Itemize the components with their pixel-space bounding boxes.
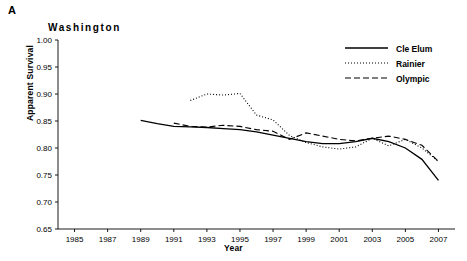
y-tick-label: 1.00 — [36, 36, 52, 45]
y-tick-label: 0.75 — [36, 171, 52, 180]
legend-item-label: Cle Elum — [396, 44, 433, 54]
legend-item-label: Olympic — [396, 74, 430, 84]
x-tick-label: 2007 — [430, 235, 448, 244]
series-line — [190, 93, 438, 161]
y-tick-label: 0.85 — [36, 117, 52, 126]
x-axis-ticks: 1985198719891991199319951997199920012003… — [66, 229, 448, 244]
series-line — [174, 123, 439, 161]
x-tick-label: 1993 — [198, 235, 216, 244]
x-tick-label: 1999 — [297, 235, 315, 244]
x-tick-label: 2001 — [330, 235, 348, 244]
y-axis-ticks: 0.650.700.750.800.850.900.951.00 — [36, 36, 58, 234]
chart-panel: A Washington Apparent Survival Year 0.65… — [0, 0, 467, 261]
series-line — [141, 120, 439, 180]
y-tick-label: 0.95 — [36, 63, 52, 72]
x-tick-label: 1985 — [66, 235, 84, 244]
plot-area: 0.650.700.750.800.850.900.951.00 1985198… — [0, 0, 467, 261]
y-tick-label: 0.90 — [36, 90, 52, 99]
x-tick-label: 2003 — [363, 235, 381, 244]
y-tick-label: 0.65 — [36, 225, 52, 234]
x-tick-label: 1997 — [264, 235, 282, 244]
legend-item-label: Rainier — [396, 59, 426, 69]
x-tick-label: 1995 — [231, 235, 249, 244]
y-tick-label: 0.80 — [36, 144, 52, 153]
y-tick-label: 0.70 — [36, 198, 52, 207]
x-tick-label: 1989 — [132, 235, 150, 244]
chart-legend: Cle ElumRainierOlympic — [345, 44, 433, 84]
x-tick-label: 2005 — [396, 235, 414, 244]
data-series-group — [141, 93, 439, 180]
x-tick-label: 1987 — [99, 235, 117, 244]
x-tick-label: 1991 — [165, 235, 183, 244]
